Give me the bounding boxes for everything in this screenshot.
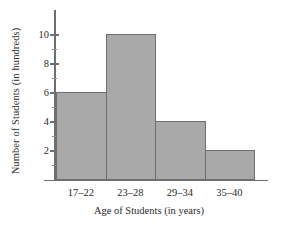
bar-series	[56, 20, 254, 180]
bar	[155, 121, 206, 179]
x-axis-line	[44, 180, 268, 182]
x-category-label: 29–34	[155, 186, 205, 200]
bar	[205, 150, 256, 179]
x-category-label: 17–22	[56, 186, 106, 200]
bar	[56, 92, 107, 179]
histogram-chart: Number of Students (in hundreds) 108642 …	[0, 0, 284, 225]
x-axis-category-labels: 17–2223–2829–3435–40	[56, 186, 254, 200]
plot-area: 108642	[56, 18, 268, 181]
x-category-label: 35–40	[205, 186, 255, 200]
y-tick-label: 6	[44, 85, 49, 100]
y-tick-label: 4	[44, 114, 49, 129]
x-axis-title: Age of Students (in years)	[0, 203, 284, 218]
y-tick-label: 8	[44, 56, 49, 71]
bar	[106, 34, 157, 179]
y-tick-label: 2	[44, 143, 49, 158]
x-category-label: 23–28	[106, 186, 156, 200]
y-tick-label: 10	[39, 27, 50, 42]
y-axis-title: Number of Students (in hundreds)	[8, 6, 24, 196]
